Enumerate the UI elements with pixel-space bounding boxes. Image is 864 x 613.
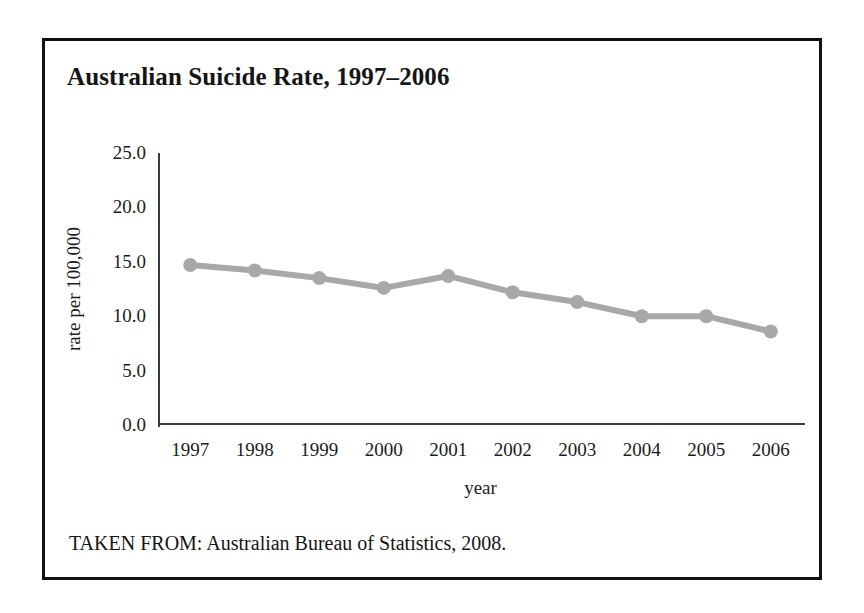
data-point-marker bbox=[699, 309, 713, 323]
figure-frame: Australian Suicide Rate, 1997–2006 rate … bbox=[42, 38, 822, 580]
x-tick-label: 2001 bbox=[429, 439, 467, 461]
y-axis-title: rate per 100,000 bbox=[63, 153, 85, 425]
data-point-marker bbox=[312, 271, 326, 285]
data-point-marker bbox=[506, 285, 520, 299]
y-tick-label: 20.0 bbox=[113, 196, 146, 218]
x-tick-label: 2006 bbox=[752, 439, 790, 461]
x-tick-label: 1999 bbox=[300, 439, 338, 461]
x-tick-label: 2002 bbox=[494, 439, 532, 461]
y-tick-label: 5.0 bbox=[122, 360, 146, 382]
x-axis-title: year bbox=[158, 477, 803, 499]
y-tick-label: 0.0 bbox=[122, 414, 146, 436]
y-tick-label: 25.0 bbox=[113, 142, 146, 164]
line-series bbox=[158, 153, 803, 425]
y-tick-label: 10.0 bbox=[113, 305, 146, 327]
y-tick-label: 15.0 bbox=[113, 251, 146, 273]
source-note: TAKEN FROM: Australian Bureau of Statist… bbox=[69, 532, 506, 555]
data-point-marker bbox=[377, 281, 391, 295]
series-line bbox=[190, 265, 771, 331]
data-point-marker bbox=[635, 309, 649, 323]
x-tick-label: 2000 bbox=[365, 439, 403, 461]
page-title: Australian Suicide Rate, 1997–2006 bbox=[67, 63, 450, 91]
x-tick-label: 2005 bbox=[687, 439, 725, 461]
data-point-marker bbox=[764, 324, 778, 338]
x-tick-label: 1998 bbox=[236, 439, 274, 461]
data-point-marker bbox=[570, 295, 584, 309]
x-tick-label: 1997 bbox=[171, 439, 209, 461]
x-tick-label: 2004 bbox=[623, 439, 661, 461]
data-point-marker bbox=[441, 269, 455, 283]
data-point-marker bbox=[248, 264, 262, 278]
plot-area: 0.05.010.015.020.025.0 19971998199920002… bbox=[158, 153, 803, 425]
x-tick-label: 2003 bbox=[558, 439, 596, 461]
data-point-marker bbox=[183, 258, 197, 272]
